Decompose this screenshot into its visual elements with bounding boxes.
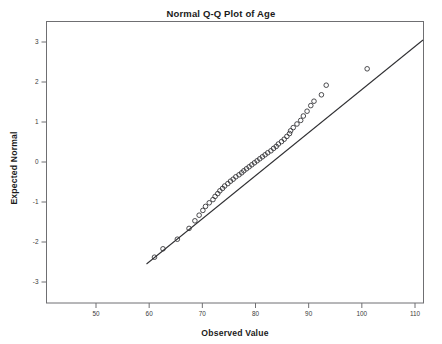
data-point: [295, 122, 300, 127]
data-point: [301, 114, 306, 119]
data-point: [324, 83, 329, 88]
data-point: [197, 213, 202, 218]
x-tick-label: 70: [199, 310, 207, 317]
y-tick-label: 3: [35, 38, 39, 45]
data-point: [193, 219, 198, 224]
x-tick-label: 110: [410, 310, 421, 317]
y-tick-label: -3: [33, 278, 39, 285]
plot-frame: [47, 22, 424, 304]
y-tick-label: -1: [33, 198, 39, 205]
qq-plot-canvas: Normal Q-Q Plot of Age 5060708090100110 …: [0, 0, 442, 344]
data-point: [305, 109, 310, 114]
y-tick-label: -2: [33, 238, 39, 245]
data-point: [298, 118, 303, 123]
x-tick-label: 60: [146, 310, 154, 317]
page-title: Normal Q-Q Plot of Age: [166, 8, 275, 19]
y-tick-label: 2: [35, 78, 39, 85]
x-axis-title: Observed Value: [201, 328, 268, 338]
data-point: [319, 93, 324, 98]
data-point: [312, 99, 317, 104]
x-axis-ticks: 5060708090100110: [92, 303, 420, 317]
x-tick-label: 50: [92, 310, 100, 317]
data-point: [285, 134, 290, 139]
data-point: [365, 67, 370, 72]
y-tick-label: 0: [35, 158, 39, 165]
x-tick-label: 100: [356, 310, 367, 317]
x-tick-label: 90: [305, 310, 313, 317]
data-point-group: [152, 67, 369, 260]
qq-plot-figure: Normal Q-Q Plot of Age 5060708090100110 …: [0, 0, 442, 344]
data-point: [287, 131, 292, 136]
x-tick-label: 80: [252, 310, 260, 317]
data-point: [203, 204, 208, 209]
data-point: [308, 103, 313, 108]
y-axis-title: Expected Normal: [9, 131, 19, 204]
y-tick-label: 1: [35, 118, 39, 125]
y-axis-ticks: 3210-1-2-3: [33, 38, 47, 285]
data-point: [291, 125, 296, 130]
